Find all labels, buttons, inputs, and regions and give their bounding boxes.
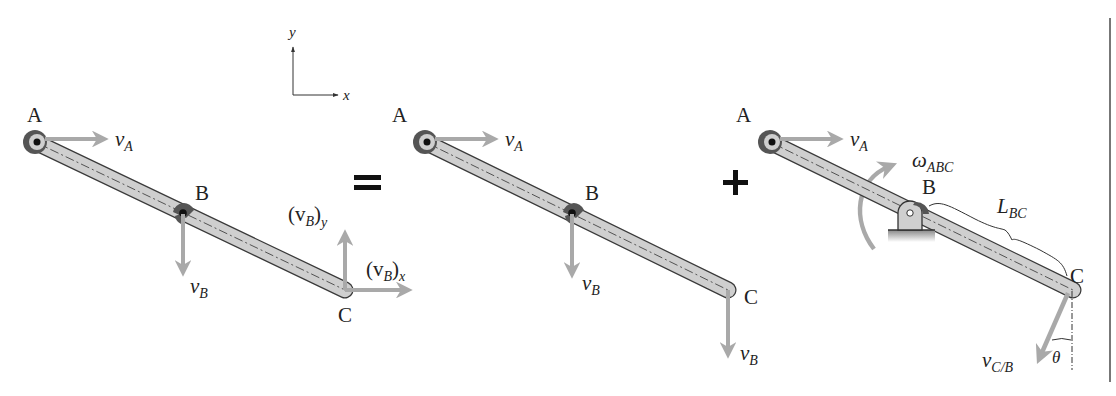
label-point-c: C <box>1070 264 1084 288</box>
label-point-b: B <box>922 175 936 199</box>
angle-arc <box>1052 339 1071 341</box>
label-point-b: B <box>585 181 599 205</box>
label-vb-y: (vB)y <box>288 202 328 230</box>
label-va: vA <box>115 127 133 154</box>
label-vcb: vC/B <box>982 348 1014 375</box>
label-vb: vB <box>582 271 600 298</box>
relative-velocity-diagram: y x A B C vA vB (vB)y (vB)x <box>0 0 1116 396</box>
panel-general-motion: A B C vA vB (vB)y (vB)x <box>23 103 406 327</box>
label-point-b: B <box>195 181 209 205</box>
label-va: vA <box>850 127 868 154</box>
label-vb-x: (vB)x <box>366 257 406 284</box>
pin-a <box>758 130 782 154</box>
label-point-a: A <box>736 103 752 127</box>
label-va: vA <box>505 127 523 154</box>
label-point-a: A <box>392 103 408 127</box>
panel-translation: A B C vA vB vB <box>392 103 758 368</box>
x-axis-label: x <box>342 87 350 103</box>
equals-sign <box>354 175 381 190</box>
label-point-a: A <box>27 103 43 127</box>
pin-a <box>413 130 437 154</box>
panel-rotation-about-b: A B C vA ωABC LBC vC/B θ <box>736 103 1084 375</box>
coordinate-axes: y x <box>287 24 350 103</box>
label-point-c: C <box>338 303 352 327</box>
y-axis-label: y <box>287 24 296 40</box>
pin-a <box>23 130 47 154</box>
label-point-c: C <box>744 285 758 309</box>
label-vc: vB <box>740 341 758 368</box>
label-vb: vB <box>190 274 208 301</box>
plus-sign <box>723 170 748 195</box>
label-theta: θ <box>1052 348 1060 367</box>
label-omega: ωABC <box>912 148 954 175</box>
label-length-bc: LBC <box>996 194 1027 221</box>
